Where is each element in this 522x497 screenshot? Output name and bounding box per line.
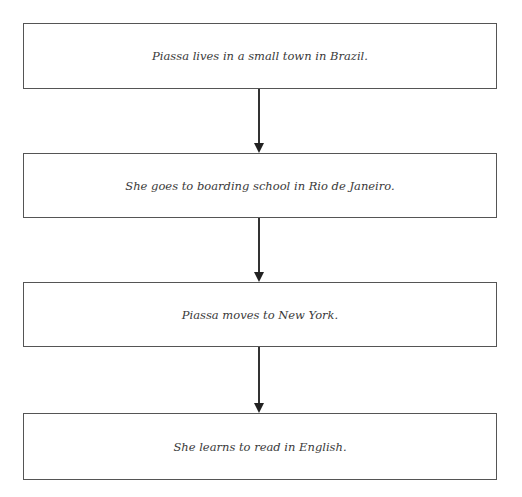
arrowhead-icon	[254, 403, 264, 413]
connector-line	[258, 218, 260, 272]
flow-step-label: Piassa lives in a small town in Brazil.	[152, 49, 368, 63]
flow-step-label: She learns to read in English.	[173, 440, 346, 454]
flow-step-label: She goes to boarding school in Rio de Ja…	[125, 179, 394, 193]
connector-line	[258, 347, 260, 403]
flow-step-2: She goes to boarding school in Rio de Ja…	[23, 153, 497, 218]
flow-step-1: Piassa lives in a small town in Brazil.	[23, 23, 497, 89]
connector-line	[258, 89, 260, 143]
flow-step-4: She learns to read in English.	[23, 413, 497, 480]
arrowhead-icon	[254, 143, 264, 153]
flow-step-3: Piassa moves to New York.	[23, 282, 497, 347]
flow-step-label: Piassa moves to New York.	[182, 308, 338, 322]
arrowhead-icon	[254, 272, 264, 282]
